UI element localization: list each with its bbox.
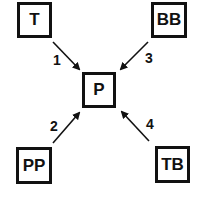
arrow-tb-to-p <box>122 112 149 141</box>
edge-label-4: 4 <box>146 117 154 131</box>
node-t-label: T <box>29 10 39 30</box>
node-bb-label: BB <box>157 10 182 30</box>
edge-label-1: 1 <box>53 53 61 67</box>
node-bb: BB <box>151 2 187 38</box>
node-pp: PP <box>16 147 52 184</box>
edge-label-2: 2 <box>50 119 58 133</box>
node-p-label: P <box>93 80 104 100</box>
node-p: P <box>82 72 116 108</box>
node-pp-label: PP <box>23 156 46 176</box>
arrow-bb-to-p <box>121 42 148 69</box>
edge-label-3: 3 <box>145 51 153 65</box>
node-t: T <box>17 2 52 38</box>
node-tb-label: TB <box>161 155 184 175</box>
node-tb: TB <box>155 146 190 183</box>
